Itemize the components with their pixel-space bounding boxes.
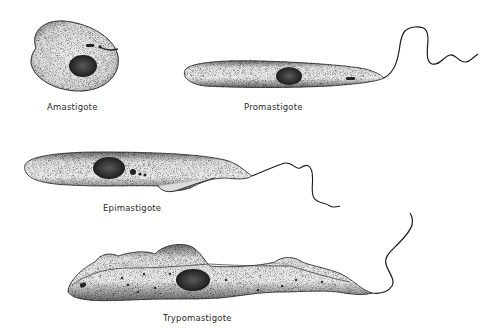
promastigote-kinetoplast (346, 77, 355, 80)
trypomastigote-label: Trypomastigote (163, 313, 232, 323)
epimastigote-cell (25, 152, 340, 207)
trypomastigote-nucleus (176, 269, 210, 291)
trypanosomatid-forms-diagram (0, 0, 499, 330)
promastigote-nucleus (276, 67, 302, 85)
amastigote-cell (31, 21, 118, 91)
promastigote-label: Promastigote (244, 102, 303, 112)
promastigote-flagellum (384, 27, 478, 78)
amastigote-nucleus (69, 55, 97, 77)
trypomastigote-flagellum (372, 213, 412, 293)
amastigote-label: Amastigote (47, 102, 98, 112)
epimastigote-kinetoplast (130, 169, 136, 175)
promastigote-cell (184, 27, 478, 88)
epimastigote-nucleus (93, 157, 125, 179)
epimastigote-label: Epimastigote (103, 203, 161, 213)
amastigote-kinetoplast (86, 44, 94, 47)
epimastigote-flagellum (252, 163, 340, 207)
trypomastigote-cell (68, 213, 412, 301)
